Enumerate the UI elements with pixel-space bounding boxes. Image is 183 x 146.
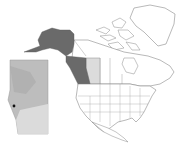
alberta-inset (8, 60, 48, 134)
location-marker (13, 105, 16, 108)
greenland (130, 5, 175, 46)
alaska-highlight (24, 28, 74, 56)
north-america-map (0, 0, 183, 146)
united-states (76, 84, 156, 132)
